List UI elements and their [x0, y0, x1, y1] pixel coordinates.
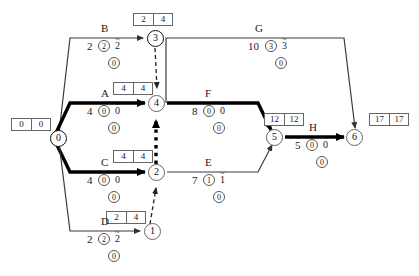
earliest-time-node-1: 2	[107, 212, 126, 223]
activity-duration-B: 2	[87, 41, 93, 52]
activity-independent-float-E: 0	[213, 191, 225, 203]
time-box-node-1: 2 4	[106, 211, 146, 224]
dummy-edge-1-2	[150, 188, 156, 224]
activity-free-float-F: ~ 0	[220, 103, 225, 115]
activity-free-float-D: ~ 2	[115, 231, 120, 243]
latest-time-node-1: 4	[126, 212, 145, 223]
activity-total-float-H: 0	[306, 139, 318, 151]
edge-E	[167, 145, 272, 172]
activity-total-float-D: 2	[98, 233, 110, 245]
activity-independent-float-F: 0	[213, 122, 225, 134]
node-1[interactable]: 1	[144, 223, 161, 240]
activity-free-float-G: ~ 3	[282, 38, 287, 50]
latest-time-node-6: 17	[389, 114, 408, 125]
latest-time-node-4: 4	[133, 83, 152, 94]
activity-duration-F: 8	[192, 106, 198, 117]
activity-total-float-G: 3	[265, 40, 277, 52]
activity-independent-float-B: 0	[108, 57, 120, 69]
time-box-node-0: 0 0	[11, 118, 51, 131]
activity-free-float-H: ~ 0	[323, 137, 328, 149]
activity-independent-float-G: 0	[275, 57, 287, 69]
activity-duration-E: 7	[192, 175, 198, 186]
activity-label-G: G	[255, 23, 263, 34]
activity-total-float-A: 0	[98, 105, 110, 117]
activity-duration-D: 2	[87, 234, 93, 245]
latest-time-node-5: 12	[284, 114, 303, 125]
node-5[interactable]: 5	[266, 129, 283, 146]
latest-time-node-2: 4	[133, 151, 152, 162]
activity-total-float-E: 1	[203, 174, 215, 186]
activity-free-float-B: ~ 2	[115, 38, 120, 50]
time-box-node-6: 17 17	[369, 113, 409, 126]
earliest-time-node-5: 12	[265, 114, 284, 125]
activity-label-H: H	[309, 122, 317, 133]
earliest-time-node-6: 17	[370, 114, 389, 125]
activity-label-B: B	[101, 23, 108, 34]
activity-total-float-C: 0	[98, 174, 110, 186]
earliest-time-node-2: 4	[114, 151, 133, 162]
activity-free-float-A: ~ 0	[115, 103, 120, 115]
node-6[interactable]: 6	[346, 129, 363, 146]
activity-total-float-F: 0	[203, 105, 215, 117]
activity-label-E: E	[205, 157, 212, 168]
activity-label-C: C	[101, 157, 108, 168]
time-box-node-5: 12 12	[264, 113, 304, 126]
activity-free-float-E: ~ 1	[220, 172, 225, 184]
earliest-time-node-4: 4	[114, 83, 133, 94]
activity-label-A: A	[101, 88, 109, 99]
time-box-node-3: 2 4	[133, 13, 173, 26]
earliest-time-node-3: 2	[134, 14, 153, 25]
time-box-node-4: 4 4	[113, 82, 153, 95]
activity-label-F: F	[205, 88, 211, 99]
earliest-time-node-0: 0	[12, 119, 31, 130]
latest-time-node-3: 4	[153, 14, 172, 25]
activity-independent-float-A: 0	[108, 122, 120, 134]
activity-total-float-B: 2	[98, 40, 110, 52]
activity-duration-A: 4	[87, 106, 93, 117]
activity-duration-C: 4	[87, 175, 93, 186]
time-box-node-2: 4 4	[113, 150, 153, 163]
dummy-edge-3-4	[155, 48, 157, 88]
node-0[interactable]: 0	[50, 130, 67, 147]
activity-independent-float-D: 0	[108, 250, 120, 262]
activity-independent-float-C: 0	[108, 191, 120, 203]
activity-duration-G: 10	[248, 41, 259, 52]
activity-independent-float-H: 0	[316, 156, 328, 168]
node-2[interactable]: 2	[148, 164, 165, 181]
node-4[interactable]: 4	[148, 95, 165, 112]
activity-label-D: D	[101, 216, 109, 227]
node-3[interactable]: 3	[147, 30, 164, 47]
latest-time-node-0: 0	[31, 119, 50, 130]
activity-free-float-C: ~ 0	[115, 172, 120, 184]
network-diagram-canvas: 0 1 2 3 4 5 6 0 0 2 4 4 4 4 4 2 4 12 12 …	[0, 0, 419, 276]
activity-duration-H: 5	[295, 140, 301, 151]
